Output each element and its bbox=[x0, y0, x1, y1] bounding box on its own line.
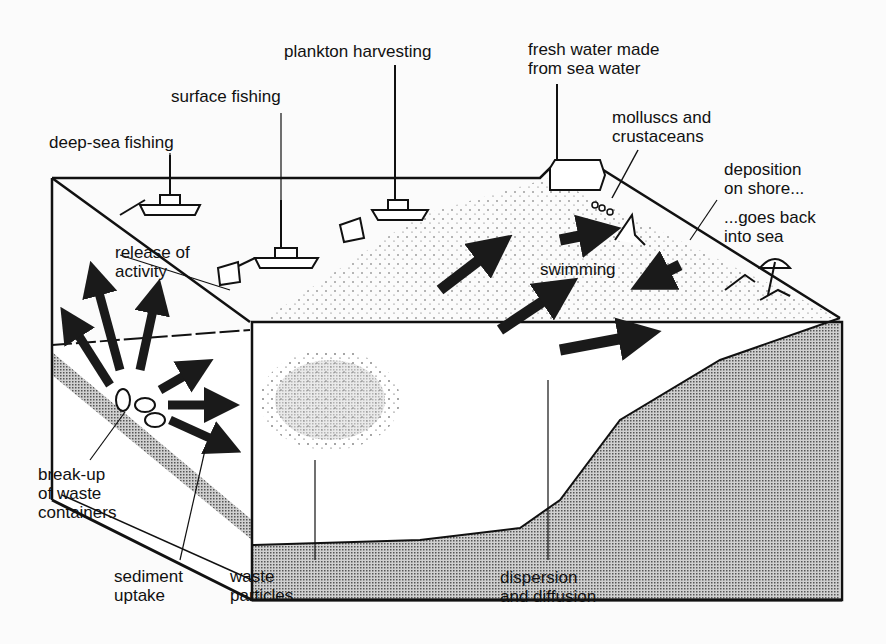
label-goes-back: ...goes backinto sea bbox=[724, 208, 816, 246]
label-deep-sea-fishing: deep-sea fishing bbox=[49, 133, 174, 152]
label-surface-fishing: surface fishing bbox=[171, 87, 281, 106]
block-left-face bbox=[52, 178, 252, 600]
label-deposition: depositionon shore... bbox=[724, 160, 804, 198]
label-swimming: swimming bbox=[540, 260, 616, 279]
label-dispersion: dispersionand diffusion bbox=[500, 568, 596, 606]
fishing-boat-icon bbox=[372, 65, 428, 220]
trawl-net-icon bbox=[340, 218, 364, 242]
diagram-canvas bbox=[0, 0, 886, 644]
waste-particle-cloud bbox=[260, 350, 400, 450]
label-release-of-activity: release ofactivity bbox=[115, 243, 190, 281]
label-plankton-harvesting: plankton harvesting bbox=[284, 42, 431, 61]
label-waste-particles: wasteparticles bbox=[230, 567, 293, 605]
desalination-plant-icon bbox=[550, 84, 605, 190]
waste-dispersion-diagram: plankton harvesting surface fishing deep… bbox=[0, 0, 886, 644]
fishing-boat-icon bbox=[120, 155, 200, 215]
label-fresh-water: fresh water madefrom sea water bbox=[528, 40, 659, 78]
fishing-boat-icon bbox=[230, 200, 318, 270]
label-sediment-uptake: sedimentuptake bbox=[114, 567, 183, 605]
label-break-up: break-upof wastecontainers bbox=[38, 465, 116, 522]
trawl-net-icon bbox=[218, 262, 240, 285]
label-molluscs: molluscs andcrustaceans bbox=[612, 108, 711, 146]
